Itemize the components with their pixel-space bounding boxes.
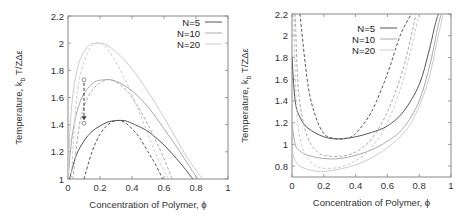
- legend-label: N=20: [177, 39, 200, 50]
- y-tick-label: 1.8: [275, 52, 288, 63]
- y-tick-label: 2: [283, 30, 288, 41]
- end-point-marker: [82, 121, 86, 125]
- y-axis-label: Temperature, kb T/ZΔε: [13, 49, 26, 144]
- start-point-marker: [82, 78, 86, 82]
- x-tick-label: 1: [225, 182, 230, 193]
- y-tick-label: 1.6: [275, 74, 288, 85]
- x-tick-label: 0.8: [189, 182, 202, 193]
- x-axis-label: Concentration of Polymer, ϕ: [313, 197, 430, 208]
- right-chart: 00.20.40.60.810.811.21.41.61.822.2Concen…: [239, 9, 454, 209]
- y-axis-label: Temperature, kb T/ZΔε: [239, 47, 252, 142]
- y-tick-label: 2: [59, 38, 64, 49]
- y-tick-label: 1.2: [275, 117, 288, 128]
- series-line: [68, 43, 202, 179]
- series-line: [84, 120, 164, 181]
- series-line: [70, 120, 193, 179]
- x-tick-label: 0.8: [413, 180, 426, 191]
- legend-label: N=5: [357, 23, 375, 34]
- x-tick-label: 0.6: [157, 182, 170, 193]
- x-tick-label: 0.4: [349, 180, 362, 191]
- x-tick-label: 0.4: [125, 182, 138, 193]
- x-tick-label: 0: [65, 182, 70, 193]
- x-tick-label: 0: [289, 180, 294, 191]
- phase-diagram-figure: 00.20.40.60.8111.21.41.61.822.2Concentra…: [0, 0, 475, 222]
- y-tick-label: 1: [59, 174, 64, 185]
- y-tick-label: 1.4: [51, 119, 64, 130]
- y-tick-label: 1: [283, 139, 288, 150]
- x-tick-label: 1: [448, 180, 453, 191]
- x-tick-label: 0.6: [381, 180, 394, 191]
- legend-label: N=10: [177, 28, 200, 39]
- x-tick-label: 0.2: [93, 182, 106, 193]
- y-tick-label: 1.4: [275, 95, 288, 106]
- left-chart: 00.20.40.60.8111.21.41.61.822.2Concentra…: [13, 11, 231, 211]
- legend-label: N=20: [352, 45, 375, 56]
- y-tick-label: 1.6: [51, 92, 64, 103]
- y-tick-label: 1.8: [51, 65, 64, 76]
- x-tick-label: 0.2: [317, 180, 330, 191]
- y-tick-label: 0.8: [275, 161, 288, 172]
- x-axis-label: Concentration of Polymer, ϕ: [89, 199, 206, 210]
- y-tick-label: 2.2: [51, 11, 64, 22]
- plot-frame: [68, 16, 228, 179]
- y-tick-label: 2.2: [275, 9, 288, 20]
- series-line: [71, 43, 169, 179]
- arrow-head-icon: [82, 116, 87, 120]
- legend-label: N=10: [352, 34, 375, 45]
- y-tick-label: 1.2: [51, 146, 64, 157]
- legend-label: N=5: [182, 17, 200, 28]
